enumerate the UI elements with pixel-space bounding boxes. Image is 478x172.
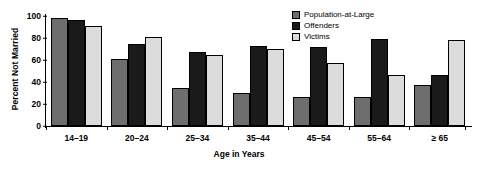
bar-group [51,16,102,126]
bar [68,20,85,126]
bar [293,97,310,126]
x-axis-tick-mark [107,126,108,130]
bar [448,40,465,126]
bar-group [233,16,284,126]
y-axis-tick-label: 80 [32,34,43,43]
bar [51,18,68,126]
bar [189,52,206,126]
legend-swatch-icon [292,22,300,30]
x-axis-tick-mark [465,126,466,130]
bar [267,49,284,126]
legend-swatch-icon [292,11,300,19]
y-axis-tick-label: 100 [27,12,43,21]
x-axis-tick-label: 45–54 [307,133,331,143]
x-axis-tick-mark [288,126,289,130]
x-axis-title: Age in Years [0,149,478,159]
x-axis-tick-label: ≥ 65 [431,133,447,143]
bar-chart: Percent Not Married 020406080100 14–1920… [0,0,478,172]
x-axis-tick-mark [228,126,229,130]
bar [414,85,431,126]
legend-item-label: Victims [304,33,330,41]
legend-item-population-at-large: Population-at-Large [292,9,374,20]
y-axis-tick-label: 40 [32,78,43,87]
x-axis-tick-mark [46,126,47,130]
bar [250,46,267,126]
y-axis-tick: 60 [32,56,46,65]
x-axis-tick-mark [167,126,168,130]
bar [85,26,102,126]
x-axis-tick-label: 20–24 [125,133,149,143]
legend-item-offenders: Offenders [292,20,374,31]
bar [310,47,327,126]
y-axis-tick-label: 0 [36,122,43,131]
bar [388,75,405,126]
bar [128,44,145,127]
bar [172,88,189,127]
bar [431,75,448,126]
x-axis-tick-label: 55–64 [367,133,391,143]
bar [371,39,388,126]
bar-group [414,16,465,126]
plot-area: 020406080100 [46,16,470,126]
x-axis-tick-label: 14–19 [64,133,88,143]
bar [145,37,162,126]
y-axis-tick: 100 [27,12,46,21]
bar [233,93,250,126]
x-axis-tick-label: 25–34 [186,133,210,143]
y-axis-tick-label: 20 [32,100,43,109]
bar-groups [46,16,470,126]
bar [206,55,223,127]
bar [354,97,371,126]
legend-item-label: Offenders [304,22,339,30]
y-axis-tick: 0 [36,122,46,131]
x-axis-line [45,126,472,127]
bar [327,63,344,126]
bar [111,59,128,126]
y-axis-tick: 80 [32,34,46,43]
legend-swatch-icon [292,33,300,41]
bar-group [172,16,223,126]
bar-group [111,16,162,126]
y-axis-tick: 20 [32,100,46,109]
y-axis-title: Percent Not Married [10,9,20,129]
legend: Population-at-Large Offenders Victims [292,9,374,42]
legend-item-label: Population-at-Large [304,11,374,19]
y-axis-tick: 40 [32,78,46,87]
y-axis-tick-label: 60 [32,56,43,65]
x-axis-tick-mark [409,126,410,130]
x-axis-tick-label: 35–44 [246,133,270,143]
x-axis-tick-mark [349,126,350,130]
legend-item-victims: Victims [292,31,374,42]
